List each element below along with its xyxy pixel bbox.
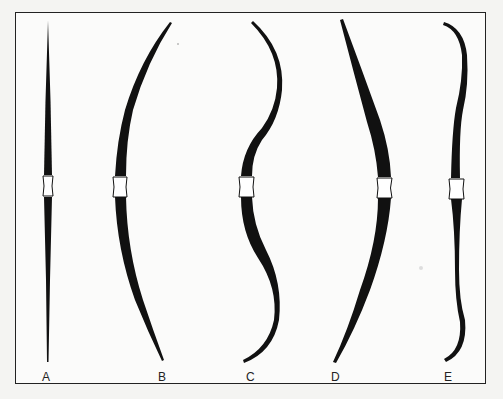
bow-label-d: D bbox=[331, 370, 340, 384]
bow-d bbox=[333, 19, 392, 363]
bow-label-b: B bbox=[158, 370, 166, 384]
bow-c bbox=[239, 21, 282, 363]
bow-b bbox=[113, 22, 172, 361]
bow-label-a: A bbox=[42, 370, 50, 384]
bow-e bbox=[443, 22, 468, 362]
bow-label-e: E bbox=[444, 370, 452, 384]
bow-a bbox=[43, 21, 53, 362]
bow-label-c: C bbox=[246, 370, 255, 384]
bow-diagram bbox=[0, 0, 503, 399]
